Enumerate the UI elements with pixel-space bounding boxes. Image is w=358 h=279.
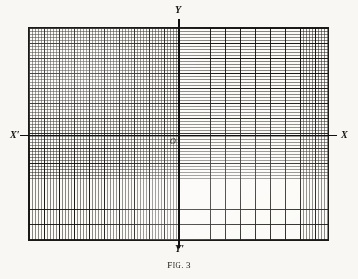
caption-smallcaps: IG bbox=[173, 262, 182, 270]
y-axis-positive-label: Y bbox=[175, 5, 181, 15]
y-axis-negative-label: Y′ bbox=[175, 244, 184, 254]
caption-figure-number: 3 bbox=[186, 260, 191, 270]
y-axis-line bbox=[178, 19, 180, 248]
origin-label: O bbox=[170, 138, 176, 146]
figure-caption: FIG.3 bbox=[0, 261, 358, 270]
x-axis-positive-label: X bbox=[341, 130, 348, 140]
figure-coordinate-grid: X′ X Y Y′ O FIG.3 bbox=[0, 0, 358, 279]
caption-separator: . bbox=[181, 260, 184, 270]
x-axis-negative-label: X′ bbox=[10, 130, 20, 140]
